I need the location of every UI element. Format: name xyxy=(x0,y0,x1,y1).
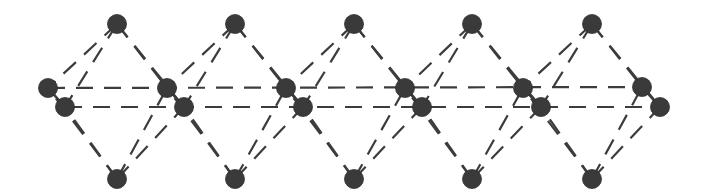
rear-equatorial-atom xyxy=(158,79,177,98)
bottom-apex-atom xyxy=(583,170,602,189)
top-apex-atom xyxy=(583,15,602,34)
octahedral-chain-diagram xyxy=(0,0,706,195)
bottom-apex-edge xyxy=(541,107,592,179)
rear-row-edge xyxy=(48,87,642,88)
rear-equatorial-atom xyxy=(39,79,58,98)
top-apex-atom xyxy=(108,15,127,34)
rear-equatorial-atom xyxy=(514,79,533,98)
top-apex-atom xyxy=(226,15,245,34)
front-equatorial-atom xyxy=(532,98,551,117)
bottom-apex-atom xyxy=(345,170,364,189)
bottom-apex-atom xyxy=(463,170,482,189)
front-equatorial-atom xyxy=(651,98,670,117)
front-equatorial-atom xyxy=(294,98,313,117)
atom-spheres xyxy=(39,15,670,189)
bottom-apex-atom xyxy=(226,170,245,189)
top-apex-atom xyxy=(345,15,364,34)
front-equatorial-atom xyxy=(56,98,75,117)
bottom-apex-atom xyxy=(108,170,127,189)
front-equatorial-atom xyxy=(175,98,194,117)
front-equatorial-atom xyxy=(413,98,432,117)
bottom-apex-edge xyxy=(65,107,117,179)
bond-lines xyxy=(48,24,660,179)
rear-equatorial-atom xyxy=(396,79,415,98)
rear-equatorial-atom xyxy=(633,78,652,97)
top-apex-atom xyxy=(463,15,482,34)
rear-equatorial-atom xyxy=(277,79,296,98)
bottom-apex-edge xyxy=(422,107,472,179)
bottom-apex-edge xyxy=(184,107,235,179)
bottom-apex-edge xyxy=(303,107,354,179)
